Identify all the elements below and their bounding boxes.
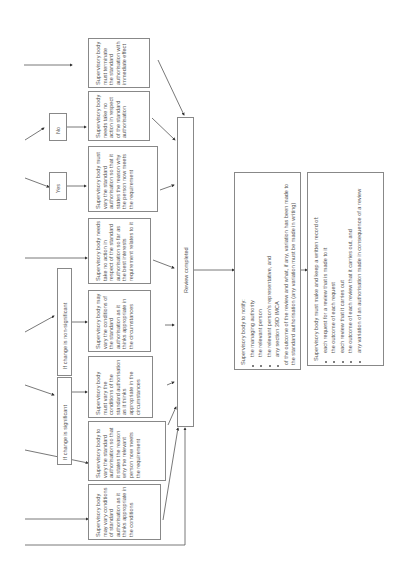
notify-heading: Supervisory body to notify: — [240, 177, 247, 365]
decision-yes: Yes — [49, 172, 67, 200]
decision-non-significant: If change is non-significant — [57, 268, 72, 376]
notify-list: the managing authority the relevant pers… — [249, 177, 281, 365]
notify-item: the managing authority — [249, 177, 256, 357]
notify-box: Supervisory body to notify: the managing… — [234, 172, 301, 370]
review-completed-box: Review completed — [177, 117, 194, 427]
record-box: Supervisory body must make and keep a wr… — [307, 172, 384, 366]
record-heading: Supervisory body must make and keep a wr… — [313, 177, 320, 361]
outcome-terminate: Supervisory body must terminate the stan… — [88, 38, 150, 88]
notify-item: the relevant person's representative, an… — [266, 177, 273, 357]
record-item: the outcome of each request — [330, 177, 337, 353]
notify-item: the relevant person — [257, 177, 264, 357]
outcome-no-action-best-interests: Supervisory body needs take no action in… — [88, 218, 151, 284]
record-item: each request for a review that is made t… — [322, 177, 329, 353]
record-item: any variation of an authorisation made i… — [356, 177, 363, 353]
decision-significant: If change is significant — [57, 377, 72, 465]
record-item: each review that it carries out — [339, 177, 346, 353]
decision-no: No — [49, 113, 67, 141]
record-item: the outcome of each review that it carri… — [347, 177, 354, 353]
record-list: each request for a review that is made t… — [322, 177, 363, 361]
outcome-vary-reason-relevant: Supervisory body to vary the standard au… — [88, 421, 166, 481]
outcome-may-vary-conditions-2: Supervisory body may vary conditions of … — [88, 484, 161, 540]
outcome-may-vary-conditions: Supervisory body may vary the conditions… — [88, 290, 151, 352]
notify-footer: of the outcome of the review and what, i… — [283, 177, 296, 365]
notify-item: any section 39D IMCA — [274, 177, 281, 357]
outcome-must-vary-conditions: Supervisory body must vary the condition… — [88, 356, 153, 418]
outcome-no-action: Supervisory body needs take no action in… — [88, 91, 150, 141]
outcome-vary-reason: Supervisory body must vary the standard … — [88, 146, 158, 212]
